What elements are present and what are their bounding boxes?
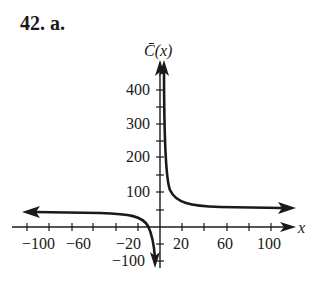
x-tick-label: 20 — [173, 235, 189, 252]
curve-right-branch — [164, 66, 282, 208]
x-tick-label: −100 — [22, 235, 55, 252]
x-axis-label: x — [297, 219, 305, 236]
x-tick-label: 100 — [257, 235, 281, 252]
y-tick-label: 400 — [126, 81, 150, 98]
x-tick-label: −60 — [66, 235, 91, 252]
graph: x C̄(x) −100 −60 −20 20 60 100 400 300 — [0, 0, 322, 288]
y-tick-label: −100 — [112, 252, 145, 269]
x-tick-label: −20 — [116, 235, 141, 252]
x-tick-label: 60 — [217, 235, 233, 252]
y-axis-label: C̄(x) — [144, 42, 172, 60]
y-tick-label: 100 — [126, 183, 150, 200]
y-tick-label: 300 — [126, 115, 150, 132]
y-tick-label: 200 — [126, 148, 150, 165]
